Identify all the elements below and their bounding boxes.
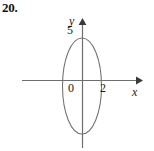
origin-label: 0 (68, 82, 74, 94)
x-axis-label: x (132, 86, 137, 98)
exercise-figure: 20. y x 5 0 2 (0, 0, 154, 151)
x-axis-arrowhead (136, 77, 143, 85)
coordinate-plot (0, 0, 154, 151)
y-axis-arrowhead (79, 18, 87, 25)
y-intercept-label: 5 (67, 24, 73, 36)
x-intercept-label: 2 (100, 82, 106, 94)
